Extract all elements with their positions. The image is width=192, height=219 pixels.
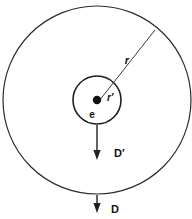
inner-field-label: D′ xyxy=(114,147,125,159)
inner-displacement-arrow-head xyxy=(93,150,100,160)
inner-radius-label: r′ xyxy=(107,92,114,103)
point-charge-dot xyxy=(93,96,101,104)
outer-displacement-arrow-head xyxy=(93,203,100,213)
charge-label: e xyxy=(89,109,95,120)
outer-radius-label: r xyxy=(125,54,130,66)
figure-container: r r′ e D′ D xyxy=(0,0,192,219)
outer-field-label: D xyxy=(111,203,119,215)
concentric-circle-diagram: r r′ e D′ D xyxy=(0,0,192,219)
